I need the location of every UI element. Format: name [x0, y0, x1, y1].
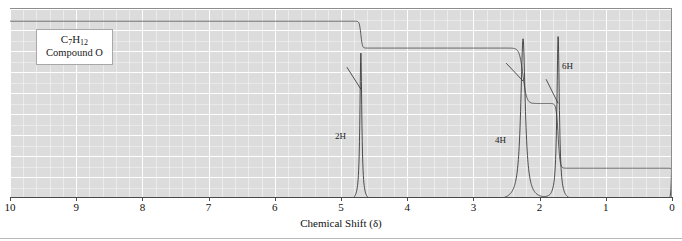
axis-tick-label: 1: [603, 201, 609, 213]
axis-tick-label: 2: [537, 201, 543, 213]
annotation-4h: 4H: [495, 135, 506, 145]
axis-tick-label: 10: [5, 201, 16, 213]
annotation-6h: 6H: [562, 61, 573, 71]
axis-tick-label: 3: [471, 201, 477, 213]
compound-label: C7H12 Compound O: [36, 29, 113, 65]
footer-divider: [0, 238, 682, 239]
compound-name: Compound O: [46, 47, 103, 59]
annotation-2h: 2H: [335, 131, 346, 141]
axis-tick-label: 7: [206, 201, 212, 213]
axis-tick-label: 8: [140, 201, 146, 213]
spectrum-plot-area: C7H12 Compound O 2H 4H 6H: [10, 8, 672, 197]
axis-tick-label: 5: [338, 201, 344, 213]
formula-h: H: [72, 33, 80, 45]
axis-tick-label: 4: [404, 201, 410, 213]
x-axis: 109876543210 ppm Chemical Shift (δ): [10, 197, 672, 241]
annotation-leader-line: [546, 79, 558, 103]
annotation-leader-line: [347, 67, 361, 89]
nmr-figure: C7H12 Compound O 2H 4H 6H 109876543210 p…: [0, 0, 682, 241]
axis-tick-label: 0: [669, 201, 675, 213]
molecular-formula: C7H12: [46, 33, 103, 47]
annotation-leader-line: [506, 63, 523, 81]
axis-tick-label: 9: [73, 201, 79, 213]
axis-tick-label: 6: [272, 201, 278, 213]
formula-h-count: 12: [80, 38, 88, 47]
axis-title: Chemical Shift (δ): [10, 217, 672, 229]
